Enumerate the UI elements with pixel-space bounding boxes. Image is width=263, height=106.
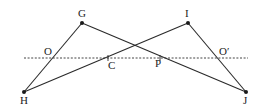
label-O: O bbox=[44, 45, 52, 57]
label-C: C bbox=[108, 59, 115, 71]
label-J: J bbox=[243, 94, 248, 106]
label-O-prime: O′ bbox=[219, 45, 229, 57]
point-I bbox=[186, 21, 190, 25]
label-H: H bbox=[20, 94, 28, 106]
label-G: G bbox=[78, 7, 86, 19]
label-P: P bbox=[155, 57, 161, 69]
geometry-diagram: G I H J O C P O′ bbox=[0, 0, 263, 106]
point-G bbox=[80, 21, 84, 25]
label-I: I bbox=[185, 7, 189, 19]
